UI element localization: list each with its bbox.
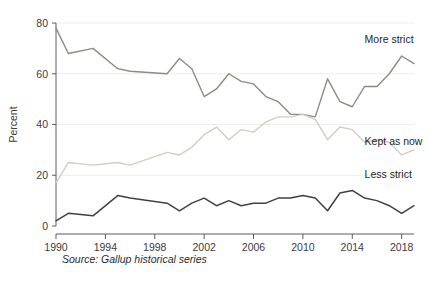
x-tick-label-1994: 1994	[94, 241, 118, 253]
y-axis-title: Percent	[7, 106, 19, 142]
y-tick-label-40: 40	[36, 118, 48, 130]
series-line-more-strict	[56, 28, 414, 117]
series-label-kept-as-now: Kept as now	[365, 135, 423, 147]
x-tick-label-2010: 2010	[291, 241, 315, 253]
x-tick-label-2006: 2006	[242, 241, 266, 253]
y-tick-label-60: 60	[36, 68, 48, 80]
y-tick-label-0: 0	[42, 220, 48, 232]
x-tick-label-1990: 1990	[44, 241, 68, 253]
x-tick-label-2014: 2014	[341, 241, 365, 253]
y-tick-label-80: 80	[36, 17, 48, 29]
series-line-less-strict	[56, 190, 414, 220]
x-tick-label-2002: 2002	[192, 241, 216, 253]
x-tick-label-1998: 1998	[143, 241, 167, 253]
line-chart: 0204060801990199419982002200620102014201…	[0, 0, 429, 281]
x-tick-label-2018: 2018	[390, 241, 414, 253]
series-label-more-strict: More strict	[365, 33, 414, 45]
chart-container: 0204060801990199419982002200620102014201…	[0, 0, 429, 281]
y-tick-label-20: 20	[36, 169, 48, 181]
source-caption: Source: Gallup historical series	[62, 253, 207, 265]
series-label-less-strict: Less strict	[365, 168, 412, 180]
